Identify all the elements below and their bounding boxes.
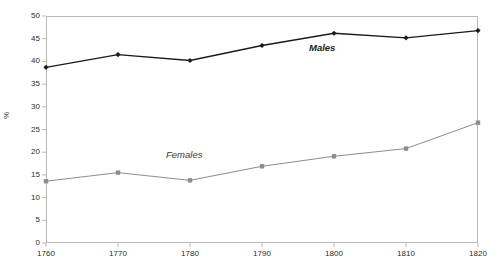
data-point-males — [187, 58, 192, 63]
series-label-females: Females — [166, 149, 202, 160]
data-point-males — [475, 28, 480, 33]
data-point-females — [332, 154, 336, 158]
data-point-females — [188, 178, 192, 182]
data-point-males — [331, 31, 336, 36]
data-point-males — [43, 65, 48, 70]
series-line-females — [46, 123, 478, 182]
data-point-females — [44, 179, 48, 183]
data-point-males — [403, 35, 408, 40]
data-point-females — [404, 146, 408, 150]
data-point-females — [260, 164, 264, 168]
series-layer — [0, 0, 502, 266]
data-point-females — [116, 170, 120, 174]
series-label-males: Males — [309, 42, 335, 53]
line-chart: % 05101520253035404550 17601770178017901… — [0, 0, 502, 266]
data-point-males — [115, 52, 120, 57]
series-line-males — [46, 31, 478, 68]
data-point-females — [476, 120, 480, 124]
data-point-males — [259, 43, 264, 48]
